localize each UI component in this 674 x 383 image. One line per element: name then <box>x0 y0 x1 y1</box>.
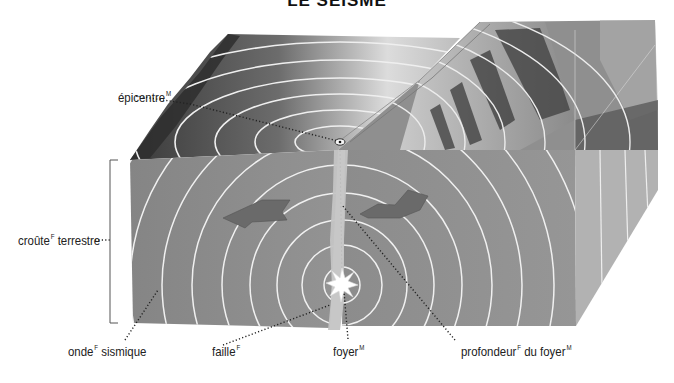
label-onde-text: onde <box>68 344 93 359</box>
label-faille-text: faille <box>212 344 236 359</box>
side-face-right <box>575 150 658 326</box>
label-onde-suffix: sismique <box>98 344 146 359</box>
gender-mark: M <box>166 90 171 97</box>
earthquake-diagram: LE SÉISME <box>0 0 674 383</box>
label-profondeur-du-foyer: profondeurF du foyerM <box>461 344 572 359</box>
label-croute-terrestre: croûteF terrestre <box>18 233 100 248</box>
label-onde-sismique: ondeF sismique <box>68 344 146 359</box>
crust-bracket <box>110 160 118 323</box>
label-foyer: foyerM <box>333 344 364 359</box>
block-diagram-illustration <box>0 0 674 383</box>
label-epicentre-text: épicentre <box>118 90 165 105</box>
gender-mark: F <box>236 344 240 351</box>
label-epicentre: épicentreM <box>118 90 171 105</box>
epicentre-marker <box>335 139 345 145</box>
gender-mark: M <box>566 344 571 351</box>
label-croute-suffix: terrestre <box>54 233 100 248</box>
label-croute-text: croûte <box>18 233 50 248</box>
label-profondeur-text: profondeur <box>461 344 516 359</box>
label-foyer-text: foyer <box>333 344 358 359</box>
label-faille: failleF <box>212 344 240 359</box>
diagram-title: LE SÉISME <box>0 0 674 11</box>
label-profondeur-suffix: du foyer <box>521 344 566 359</box>
gender-mark: M <box>359 344 364 351</box>
